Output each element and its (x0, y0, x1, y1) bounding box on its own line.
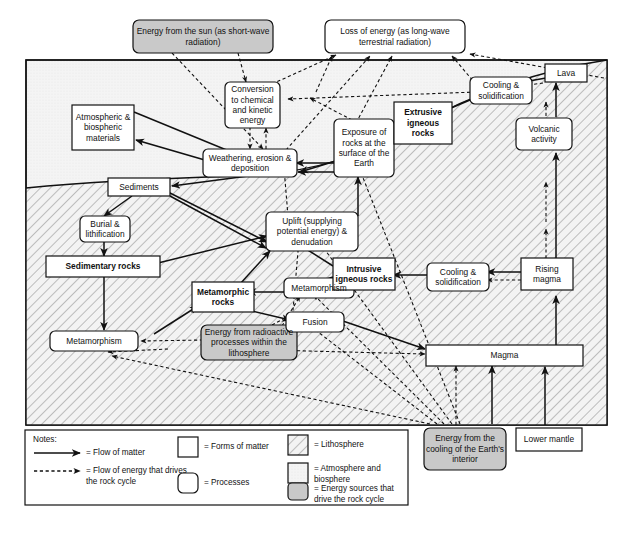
legend-flow-of-matter-label: = Flow of matter (86, 448, 145, 459)
legend-energy-sources-label: = Energy sources that drive the rock cyc… (314, 484, 406, 505)
rock-cycle-diagram: Energy from the sun (as short-wave radia… (0, 0, 632, 537)
legend-processes-label: = Processes (204, 478, 249, 489)
legend-atmosphere-biosphere-label: = Atmosphere and biosphere (314, 464, 402, 485)
legend-notes-label: Notes: (33, 435, 57, 446)
legend-forms-of-matter-label: = Forms of matter (204, 442, 269, 453)
legend-lithosphere-label: = Lithosphere (314, 440, 364, 451)
legend-flow-of-energy-label: = Flow of energy that drives the rock cy… (86, 466, 196, 487)
